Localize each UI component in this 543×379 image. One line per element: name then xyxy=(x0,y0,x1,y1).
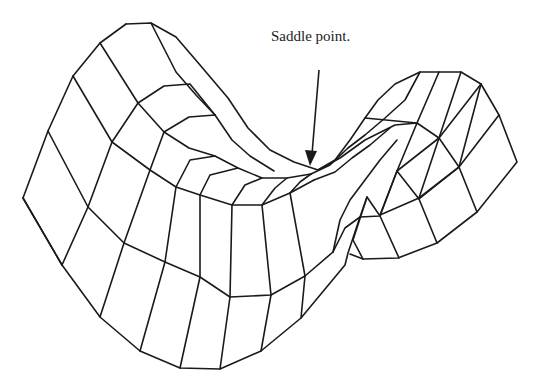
mesh-line xyxy=(333,171,437,252)
mesh-line xyxy=(164,115,215,132)
arrowhead-icon xyxy=(305,150,317,166)
mesh-line xyxy=(48,131,333,297)
mesh-line xyxy=(23,198,62,265)
mesh-line xyxy=(165,187,176,262)
saddle-diagram: Saddle point. xyxy=(0,0,543,379)
mesh-line xyxy=(397,84,481,171)
mesh-line xyxy=(100,243,124,317)
mesh-line xyxy=(262,205,271,295)
saddle-point-label: Saddle point. xyxy=(271,28,350,45)
mesh-line xyxy=(290,193,305,276)
mesh-line xyxy=(262,178,287,205)
mesh-line xyxy=(140,262,165,351)
saddle-surface-wireframe xyxy=(0,0,543,379)
mesh-line xyxy=(301,276,305,318)
mesh-line xyxy=(380,115,499,215)
mesh-line xyxy=(318,123,477,212)
mesh-line xyxy=(112,103,138,142)
mesh-grid-lines xyxy=(23,23,517,369)
mesh-line xyxy=(419,72,461,198)
mesh-line xyxy=(176,156,215,187)
mesh-line xyxy=(88,142,112,207)
mesh-line xyxy=(365,118,417,123)
mesh-line xyxy=(230,205,232,297)
mesh-line xyxy=(151,23,274,171)
mesh-line xyxy=(419,84,481,199)
mesh-line xyxy=(353,197,399,259)
mesh-line xyxy=(232,178,262,205)
mesh-line xyxy=(180,277,200,368)
mesh-line xyxy=(138,84,215,115)
mesh-line xyxy=(311,72,420,174)
mesh-line xyxy=(124,170,150,243)
mesh-line xyxy=(23,24,367,369)
mesh-line xyxy=(62,207,88,265)
mesh-line xyxy=(220,297,230,369)
arrow-icon xyxy=(312,70,319,154)
mesh-line xyxy=(126,23,517,259)
mesh-line xyxy=(150,132,164,170)
mesh-line xyxy=(380,72,439,215)
mesh-line xyxy=(261,295,271,351)
mesh-line xyxy=(200,168,238,195)
